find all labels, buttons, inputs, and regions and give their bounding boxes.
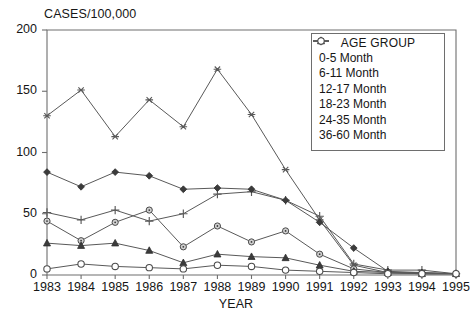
data-point-circle-dot — [44, 218, 50, 224]
data-point-filled-diamond — [214, 185, 221, 192]
data-point-circle-dot — [146, 207, 152, 213]
data-point-plus — [43, 208, 51, 216]
legend-item-label: 0-5 Month — [319, 51, 373, 65]
y-tick-label: 100 — [3, 145, 37, 159]
data-point-asterisk — [282, 167, 290, 172]
data-point-open-circle — [146, 264, 152, 270]
data-point-circle-dot — [248, 239, 254, 245]
y-tick-label: 150 — [3, 83, 37, 97]
data-point-plus — [111, 206, 119, 214]
data-point-filled-triangle — [112, 239, 119, 246]
legend-item-0-5-month: 0-5 Month — [312, 50, 444, 66]
data-point-asterisk — [214, 67, 222, 72]
legend-item-label: 36-60 Month — [319, 128, 386, 142]
data-point-open-circle — [44, 266, 50, 272]
legend-item-label: 24-35 Month — [319, 113, 386, 127]
data-point-asterisk — [145, 97, 153, 102]
legend: AGE GROUP 0-5 Month6-11 Month12-17 Month… — [311, 33, 445, 151]
legend-item-label: 6-11 Month — [319, 66, 379, 80]
data-point-open-circle — [351, 269, 357, 275]
legend-item-6-11-month: 6-11 Month — [312, 66, 444, 82]
legend-item-label: 12-17 Month — [319, 82, 386, 96]
data-point-asterisk — [180, 124, 188, 129]
data-point-open-circle — [112, 263, 118, 269]
y-tick-label: 0 — [3, 267, 37, 281]
data-point-filled-diamond — [180, 186, 187, 193]
data-point-asterisk — [111, 134, 119, 139]
y-tick-label: 50 — [3, 206, 37, 220]
data-point-asterisk — [248, 112, 256, 117]
data-point-open-circle — [419, 271, 425, 277]
series-line — [47, 192, 456, 274]
legend-item-12-17-month: 12-17 Month — [312, 81, 444, 97]
series-12-17-month — [44, 169, 460, 277]
data-point-circle-dot — [112, 219, 118, 225]
legend-item-18-23-month: 18-23 Month — [312, 97, 444, 113]
data-point-circle-dot — [214, 223, 220, 229]
data-point-filled-diamond — [146, 172, 153, 179]
legend-title: AGE GROUP — [312, 36, 444, 50]
legend-item-24-35-month: 24-35 Month — [312, 112, 444, 128]
data-point-filled-triangle — [44, 239, 51, 246]
data-point-asterisk — [77, 87, 85, 92]
data-point-open-circle — [316, 268, 322, 274]
data-point-open-circle — [248, 263, 254, 269]
x-tick-label: 1995 — [434, 280, 472, 294]
legend-item-label: 18-23 Month — [319, 97, 386, 111]
data-point-open-circle — [282, 267, 288, 273]
data-point-open-circle — [318, 38, 324, 44]
data-point-filled-diamond — [112, 169, 119, 176]
data-point-open-circle — [385, 271, 391, 277]
data-point-filled-diamond — [282, 197, 289, 204]
data-point-open-circle — [78, 261, 84, 267]
data-point-circle-dot — [180, 244, 186, 250]
data-point-open-circle — [180, 266, 186, 272]
data-point-plus — [145, 217, 153, 225]
open-circle-marker-icon — [312, 34, 330, 48]
data-point-open-circle — [453, 271, 459, 277]
data-point-plus — [77, 216, 85, 224]
data-point-filled-diamond — [44, 169, 51, 176]
data-point-filled-diamond — [78, 183, 85, 190]
data-point-circle-dot — [317, 251, 323, 257]
y-tick-label: 200 — [3, 22, 37, 36]
legend-item-36-60-month: 36-60 Month — [312, 128, 444, 144]
data-point-filled-triangle — [214, 250, 221, 257]
data-point-open-circle — [214, 262, 220, 268]
data-point-plus — [179, 210, 187, 218]
x-axis-title: YEAR — [0, 297, 472, 311]
data-point-circle-dot — [282, 228, 288, 234]
line-chart: CASES/100,000 AGE GROUP 0-5 Month6-11 Mo… — [0, 0, 472, 323]
